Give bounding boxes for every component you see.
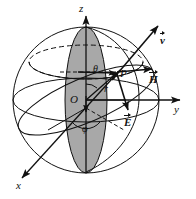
x-axis-label: x	[16, 180, 21, 191]
vector-symbol-e: E	[124, 117, 131, 128]
vector-arrow-overline-e	[124, 112, 131, 117]
spherical-coordinate-diagram: z y x O P r θ φ v H E	[0, 0, 196, 199]
vector-arrow-overline-h	[149, 69, 158, 74]
origin-label: O	[70, 94, 78, 105]
vector-arrow-overline-v	[160, 30, 165, 35]
y-axis-label: y	[174, 104, 179, 115]
z-axis-label: z	[79, 3, 83, 14]
magnetic-field-vector-label: H	[149, 69, 158, 85]
phi-label: φ	[82, 124, 88, 134]
theta-label: θ	[93, 64, 98, 74]
point-p-label: P	[120, 68, 127, 79]
diagram-canvas	[0, 0, 196, 199]
radius-label: r	[104, 84, 108, 94]
vector-symbol-v: v	[160, 35, 165, 46]
velocity-vector-label: v	[160, 30, 165, 46]
vector-symbol-h: H	[149, 74, 158, 85]
electric-field-vector-e	[117, 74, 128, 110]
electric-field-vector-label: E	[124, 112, 131, 128]
